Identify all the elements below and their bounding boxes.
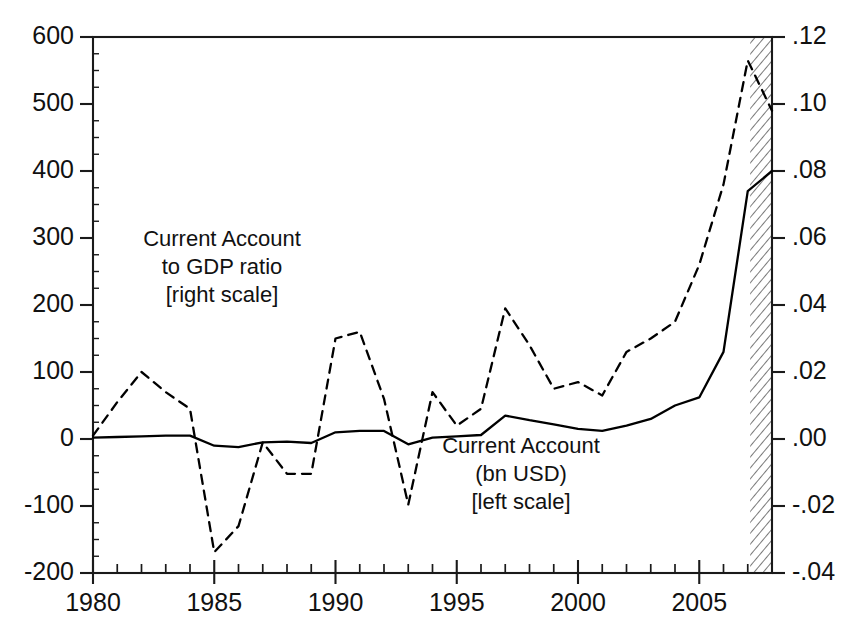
right-tick-label: .02	[792, 356, 827, 384]
right-tick-label: -.02	[792, 490, 835, 518]
left-tick-label: -100	[24, 490, 74, 518]
right-axis-tick-labels: .12.10.08.06.04.02.00-.02-.04	[792, 21, 835, 585]
gdp-ratio-annotation-line: [right scale]	[166, 282, 279, 307]
left-axis-ticks	[80, 37, 99, 573]
current-account-annotation-line: (bn USD)	[475, 461, 567, 486]
right-tick-label: .06	[792, 222, 827, 250]
right-tick-label: .12	[792, 21, 827, 49]
left-axis-tick-labels: 6005004003002001000-100-200	[24, 21, 74, 585]
right-tick-label: .10	[792, 88, 827, 116]
left-tick-label: 500	[32, 88, 74, 116]
x-tick-label: 1990	[308, 588, 364, 616]
right-tick-label: -.04	[792, 557, 835, 585]
x-tick-label: 1995	[429, 588, 485, 616]
chart-canvas: 198019851990199520002005 600500400300200…	[0, 0, 848, 639]
gdp-ratio-annotation-line: Current Account	[143, 226, 301, 251]
left-tick-label: 300	[32, 222, 74, 250]
gdp-ratio-annotation-line: to GDP ratio	[162, 254, 283, 279]
x-tick-label: 1985	[186, 588, 242, 616]
left-tick-label: 100	[32, 356, 74, 384]
chart-figure: 198019851990199520002005 600500400300200…	[0, 0, 848, 639]
current-account-annotation-line: [left scale]	[471, 489, 570, 514]
right-tick-label: .00	[792, 423, 827, 451]
right-axis-ticks	[772, 37, 785, 573]
forecast-shaded-region	[750, 37, 772, 573]
x-tick-label: 2000	[550, 588, 606, 616]
left-tick-label: 200	[32, 289, 74, 317]
series-line-current-account	[93, 171, 772, 447]
current-account-annotation-line: Current Account	[442, 433, 600, 458]
left-tick-label: 400	[32, 155, 74, 183]
left-tick-label: 600	[32, 21, 74, 49]
left-tick-label: 0	[60, 423, 74, 451]
forecast-hatch-rect	[750, 37, 772, 573]
x-tick-label: 2005	[671, 588, 727, 616]
left-tick-label: -200	[24, 557, 74, 585]
x-tick-label: 1980	[65, 588, 121, 616]
x-axis-tick-labels: 198019851990199520002005	[65, 588, 727, 616]
chart-annotations: Current Accountto GDP ratio[right scale]…	[143, 226, 600, 514]
right-tick-label: .08	[792, 155, 827, 183]
right-tick-label: .04	[792, 289, 827, 317]
